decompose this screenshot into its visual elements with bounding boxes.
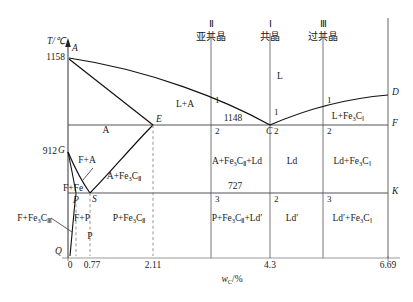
phase-label-Ld-Fe3C-I-pre: Ld+Fe: [333, 156, 358, 166]
zone-number-2-right: 2: [327, 127, 332, 136]
point-label-K: K: [392, 187, 398, 197]
phase-label-P-plus-Fe3C-II: P+Fe3CⅡ: [113, 214, 146, 224]
x-tick-label-211: 2.11: [145, 261, 161, 271]
phase-label-Ld-prime: Ld′: [286, 214, 299, 224]
point-label-C: C: [266, 127, 272, 137]
zone-number-1-right: 1: [327, 96, 332, 105]
phase-label-L-plus-A: L+A: [176, 100, 194, 110]
phase-label-L-plus-Fe3C-I-pre: L+Fe: [332, 111, 353, 121]
phase-label-P-Fe3C-II-Ld-prime: P+Fe3CⅡ+Ld′: [212, 214, 263, 224]
phase-label-L: L: [277, 72, 283, 82]
phase-label-P-Fe3C-II-pre: P+Fe: [113, 213, 133, 223]
point-label-E: E: [156, 115, 162, 125]
point-label-G: G: [58, 146, 65, 156]
phase-label-L-plus-Fe3C-I: L+Fe3CⅠ: [332, 112, 364, 122]
phase-label-F-plus-A: F+A: [78, 156, 96, 166]
zone-number-3-right: 3: [327, 195, 332, 204]
x-axis-title: wC/%: [221, 275, 242, 285]
temp-annotation-1148: 1148: [224, 114, 243, 124]
phase-label-A-Fe3C-II-Ld: A+Fe3CⅡ+Ld: [212, 157, 262, 167]
phase-label-A-plus-Fe3C-II: A+Fe3CⅡ: [107, 172, 141, 182]
phase-label-Ld-prime-plus-Fe3C-I: Ld′+Fe3CⅠ: [332, 214, 371, 224]
ES-acm-line: [90, 125, 153, 193]
phase-label-L-plus-Fe3C-I-rom: Ⅰ: [362, 115, 364, 122]
x-tick-label-43: 4.3: [264, 261, 276, 271]
point-label-P: P: [73, 196, 79, 206]
phase-label-A: A: [103, 126, 110, 136]
phase-label-P-Fe3C-II-Ld-pre: P+Fe: [212, 213, 232, 223]
temp-label-912: 912: [43, 147, 57, 157]
phase-label-A-Fe3C-II-pre: A+Fe: [107, 171, 129, 181]
point-label-D: D: [392, 88, 399, 98]
phase-label-Ld-plus-Fe3C-I: Ld+Fe3CⅠ: [333, 157, 370, 167]
phase-label-A-Fe3C-II-rom: Ⅱ: [138, 175, 141, 182]
zone-number-1-left: 1: [215, 96, 220, 105]
solidus-AE-curve: [69, 59, 153, 125]
point-label-F: F: [392, 119, 398, 129]
point-label-Q: Q: [55, 247, 62, 257]
phase-label-P-Fe3C-II-rom: Ⅱ: [142, 217, 145, 224]
column-header-cn-III: 过共晶: [308, 32, 338, 42]
column-header-cn-I: 共晶: [260, 32, 280, 42]
zone-number-2-left: 2: [215, 127, 220, 136]
temp-annotation-727: 727: [228, 182, 242, 192]
column-header-cn-II: 亚共晶: [196, 32, 226, 42]
leader-line-F-plus-A: [83, 168, 93, 180]
point-label-S: S: [92, 195, 97, 205]
y-axis-title: T/℃: [47, 37, 66, 47]
phase-label-Ld-Fe3C-I-rom: Ⅰ: [369, 160, 371, 167]
phase-label-F-Fe3C-III-rom: Ⅲ: [47, 217, 52, 224]
x-tick-label-0: 0: [68, 261, 73, 271]
column-header-roman-III: Ⅲ: [320, 19, 327, 29]
phase-label-P-Fe3C-II-Ld-tail: +Ld′: [244, 213, 262, 223]
phase-diagram-figure: Ⅱ 亚共晶 Ⅰ 共晶 Ⅲ 过共晶 T/℃ wC/% 1158 912 1148 …: [0, 0, 413, 302]
zone-number-2-mid: 2: [274, 127, 279, 136]
phase-label-A-Fe3C-II-Ld-tail: +Ld: [246, 156, 262, 166]
zone-number-2-mid-lower: 2: [274, 195, 279, 204]
phase-label-Ld-prime-Fe3C-I-rom: Ⅰ: [370, 217, 372, 224]
phase-label-F-Fe3C-III-pre: F+Fe: [17, 213, 37, 223]
column-header-roman-I: Ⅰ: [269, 19, 272, 29]
x-axis-title-tail: /%: [232, 274, 243, 284]
leader-line-F-Fe3C-III: [51, 218, 72, 232]
zone-number-3-left: 3: [215, 195, 220, 204]
x-tick-label-669: 6.69: [380, 261, 397, 271]
point-label-A: A: [72, 44, 78, 54]
zone-number-1-mid: 1: [274, 108, 279, 117]
temp-label-1158: 1158: [46, 53, 65, 63]
column-header-roman-II: Ⅱ: [209, 19, 214, 29]
phase-label-F-plus-Fe3C-III: F+Fe3CⅢ: [17, 214, 52, 224]
phase-label-Ld: Ld: [287, 157, 298, 167]
point-label-F-left: F+Fe: [63, 184, 83, 194]
phase-label-P: P: [87, 232, 92, 242]
phase-label-A-Fe3C-II-Ld-pre: A+Fe: [212, 156, 234, 166]
x-tick-label-077: 0.77: [84, 261, 101, 271]
phase-label-Ld-prime-Fe3C-I-pre: Ld′+Fe: [332, 213, 360, 223]
phase-label-F-plus-P: F+P: [74, 214, 90, 224]
